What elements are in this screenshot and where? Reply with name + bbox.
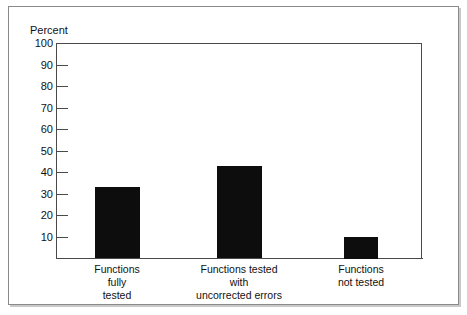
category-label: Functionsfullytested [56, 263, 178, 302]
y-axis-tick-label: 30 [9, 188, 53, 200]
y-axis-tick-mark [57, 237, 68, 238]
category-label-line: Functions [56, 263, 178, 276]
bar [95, 187, 140, 258]
y-axis-tick-label: 50 [9, 145, 53, 157]
category-label-line: with [178, 276, 300, 289]
y-axis-tick-mark [57, 65, 68, 66]
category-label-line: Functions [300, 263, 422, 276]
category-label-line: tested [56, 289, 178, 302]
y-axis-tick-label: 40 [9, 166, 53, 178]
y-axis-tick-label: 60 [9, 123, 53, 135]
y-axis-tick-label: 10 [9, 231, 53, 243]
y-axis-tick-mark [57, 108, 68, 109]
category-label-line: Functions tested [178, 263, 300, 276]
category-label-line: fully [56, 276, 178, 289]
y-axis-tick-mark [57, 172, 68, 173]
bar [344, 237, 378, 259]
y-axis-tick-mark [57, 215, 68, 216]
category-label-line: not tested [300, 276, 422, 289]
y-axis-tick-mark [57, 151, 68, 152]
bar-chart: Percent 100908070605040302010 Functionsf… [9, 7, 460, 306]
y-axis-tick-mark [57, 86, 68, 87]
y-axis-tick-label: 100 [9, 37, 53, 49]
bar [217, 166, 262, 258]
y-axis-tick-label: 20 [9, 209, 53, 221]
category-label: Functionsnot tested [300, 263, 422, 289]
y-axis-tick-label: 80 [9, 80, 53, 92]
figure-frame: Percent 100908070605040302010 Functionsf… [8, 6, 459, 305]
y-axis-title: Percent [30, 24, 68, 36]
y-axis-tick-label: 90 [9, 59, 53, 71]
category-label: Functions testedwithuncorrected errors [178, 263, 300, 302]
y-axis-tick-label: 70 [9, 102, 53, 114]
category-label-line: uncorrected errors [178, 289, 300, 302]
y-axis-tick-mark [57, 129, 68, 130]
y-axis-tick-mark [57, 194, 68, 195]
